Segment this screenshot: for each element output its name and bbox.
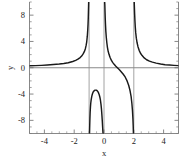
y-tick-label: 0	[21, 63, 25, 73]
x-tick-label: -4	[41, 136, 49, 146]
x-tick-label: 2	[132, 136, 136, 146]
y-tick-label: -4	[18, 89, 26, 99]
function-branch	[90, 90, 104, 133]
y-tick-label: 4	[21, 36, 26, 46]
y-tick-label: 8	[21, 10, 25, 20]
function-branch	[134, 2, 178, 66]
x-tick-label: 0	[102, 136, 106, 146]
chart-figure: -8-4048-4-2024xy	[0, 0, 192, 161]
x-tick-label: 4	[161, 136, 166, 146]
y-axis-title: y	[5, 65, 15, 70]
x-tick-label: -2	[71, 136, 78, 146]
plot-svg: -8-4048-4-2024xy	[0, 0, 192, 161]
y-tick-label: -8	[18, 115, 25, 125]
function-branch	[30, 2, 89, 66]
x-axis-title: x	[102, 148, 107, 158]
